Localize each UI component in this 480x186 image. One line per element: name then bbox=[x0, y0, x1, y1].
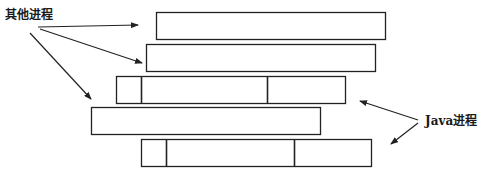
bar-outline bbox=[117, 77, 346, 104]
other-process-bar bbox=[92, 108, 321, 135]
bar-outline bbox=[157, 13, 386, 40]
arrow-icon bbox=[38, 25, 138, 27]
bar-outline bbox=[142, 140, 372, 167]
arrow-icon bbox=[40, 29, 142, 63]
other-processes-label: 其他进程 bbox=[5, 8, 53, 22]
arrow-icon bbox=[360, 101, 418, 120]
process-bars bbox=[92, 13, 386, 167]
bar-outline bbox=[92, 108, 321, 135]
other-process-bar bbox=[157, 13, 386, 40]
java-process-bar bbox=[117, 77, 346, 104]
bar-outline bbox=[147, 45, 376, 72]
arrow-icon bbox=[391, 123, 418, 144]
java-process-bar bbox=[142, 140, 372, 167]
other-process-bar bbox=[147, 45, 376, 72]
arrows bbox=[30, 25, 418, 144]
java-processes-label: Java进程 bbox=[425, 114, 477, 128]
process-diagram bbox=[0, 0, 480, 186]
